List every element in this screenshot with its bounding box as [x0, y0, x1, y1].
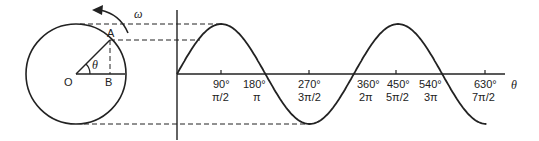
label-a: A	[107, 27, 115, 39]
tick-180-rad: π	[253, 91, 261, 103]
label-o: O	[64, 76, 73, 88]
tick-540-rad: 3π	[424, 91, 438, 103]
tick-90-rad: π/2	[212, 91, 229, 103]
tick-450-rad: 5π/2	[386, 91, 409, 103]
tick-labels: 90° π/2 180° π 270° 3π/2 360° 2π 450° 5π…	[212, 78, 497, 103]
tick-270-rad: 3π/2	[298, 91, 321, 103]
diagram-canvas: O A B θ ω 90° π/2 180° π 270° 3π/2 360° …	[0, 0, 539, 141]
tick-90-deg: 90°	[213, 78, 230, 90]
tick-360-deg: 360°	[357, 78, 380, 90]
angle-arc-icon	[86, 64, 90, 74]
tick-180-deg: 180°	[243, 78, 266, 90]
phasor-sine-diagram: O A B θ ω 90° π/2 180° π 270° 3π/2 360° …	[0, 0, 539, 141]
tick-630-deg: 630°	[474, 78, 497, 90]
tick-360-rad: 2π	[359, 91, 373, 103]
axis-label-theta: θ	[511, 78, 517, 92]
label-omega: ω	[134, 7, 142, 21]
label-b: B	[105, 76, 112, 88]
tick-630-rad: 7π/2	[472, 91, 495, 103]
rotation-arrowhead-icon	[92, 5, 103, 15]
tick-450-deg: 450°	[387, 78, 410, 90]
tick-270-deg: 270°	[298, 78, 321, 90]
tick-540-deg: 540°	[419, 78, 442, 90]
label-theta-angle: θ	[92, 58, 98, 72]
